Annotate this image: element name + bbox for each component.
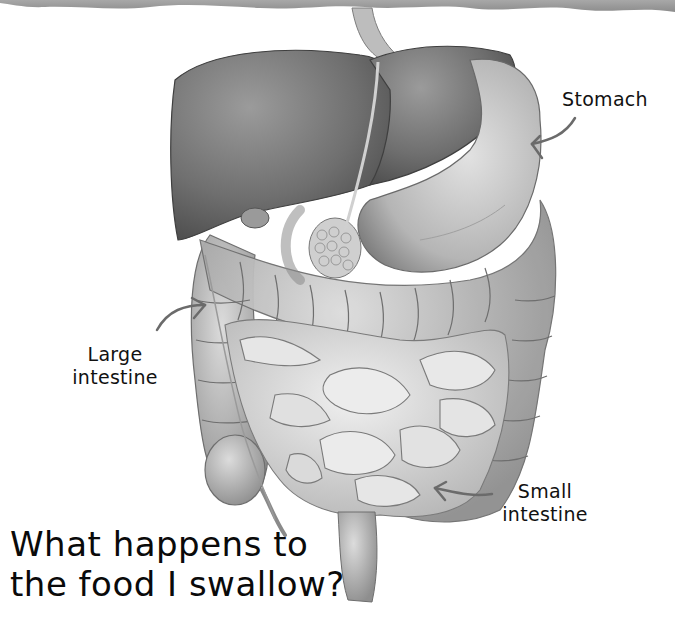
small-intestine-label-line1: Small	[490, 480, 600, 503]
large-intestine-label: Large intestine	[60, 343, 170, 389]
small-intestine-label: Small intestine	[490, 480, 600, 526]
page-title: What happens to the food I swallow?	[10, 524, 345, 604]
page-title-line2: the food I swallow?	[10, 564, 345, 604]
small-intestine	[225, 320, 509, 517]
esophagus	[352, 8, 398, 60]
stomach-label-text: Stomach	[562, 88, 648, 110]
small-intestine-label-line2: intestine	[490, 503, 600, 526]
large-intestine-label-line2: intestine	[60, 366, 170, 389]
page-title-line1: What happens to	[10, 524, 345, 564]
large-intestine-label-line1: Large	[60, 343, 170, 366]
pancreas	[309, 218, 361, 278]
stomach-label: Stomach	[560, 88, 650, 111]
gallbladder	[241, 208, 269, 228]
duodenum	[286, 210, 300, 280]
